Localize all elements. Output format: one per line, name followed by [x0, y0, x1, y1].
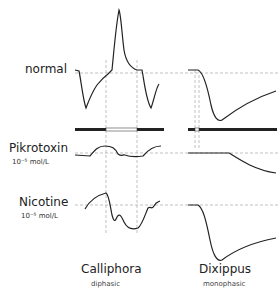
stimulus-bar-dixippus — [188, 128, 277, 131]
trace-nicotine-dixippus — [188, 205, 276, 260]
stimulus-bar-calliphora — [75, 128, 164, 131]
trace-pikrotoxin-dixippus — [188, 153, 276, 173]
trace-normal-dixippus — [188, 70, 276, 120]
trace-normal-calliphora — [75, 10, 159, 108]
trace-nicotine-calliphora — [85, 193, 160, 229]
trace-pikrotoxin-calliphora — [75, 146, 161, 157]
response-traces-diagram — [0, 0, 279, 295]
